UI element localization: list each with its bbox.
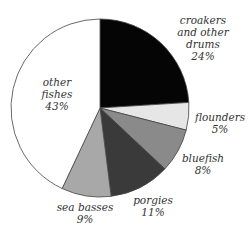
label-bluefish-pct: 8% <box>178 164 228 176</box>
label-bluefish: bluefish 8% <box>178 152 228 176</box>
label-croakers-line1: croakers <box>168 14 238 26</box>
label-porgies: porgies 11% <box>128 194 178 218</box>
label-flounders: flounders 5% <box>192 111 248 135</box>
label-flounders-line1: flounders <box>192 111 248 123</box>
label-other-pct: 43% <box>35 100 79 112</box>
label-sea-basses-line1: sea basses <box>52 201 118 213</box>
label-croakers-line2: and other <box>168 26 238 38</box>
label-bluefish-line1: bluefish <box>178 152 228 164</box>
label-sea-basses: sea basses 9% <box>52 201 118 225</box>
label-croakers: croakers and other drums 24% <box>168 14 238 62</box>
label-porgies-line1: porgies <box>128 194 178 206</box>
label-other-line2: fishes <box>35 88 79 100</box>
label-flounders-pct: 5% <box>192 123 248 135</box>
label-croakers-pct: 24% <box>168 50 238 62</box>
label-other-line1: other <box>35 76 79 88</box>
label-porgies-pct: 11% <box>128 206 178 218</box>
label-croakers-line3: drums <box>168 38 238 50</box>
label-sea-basses-pct: 9% <box>52 213 118 225</box>
label-other-fishes: other fishes 43% <box>35 76 79 112</box>
